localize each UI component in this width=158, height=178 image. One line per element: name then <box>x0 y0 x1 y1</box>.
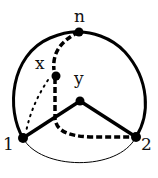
node-1 <box>18 133 28 143</box>
node-x <box>52 72 61 81</box>
dashed-path-n-x <box>54 32 79 70</box>
label-1: 1 <box>3 134 14 154</box>
graph-diagram: n x y 1 2 <box>0 0 158 178</box>
node-n <box>75 28 84 37</box>
node-y <box>76 97 85 106</box>
label-2: 2 <box>141 134 152 154</box>
node-2 <box>131 132 141 142</box>
edge-y-2 <box>80 101 136 137</box>
label-y: y <box>73 68 84 88</box>
outer-arc-thin <box>23 137 136 163</box>
edge-1-y <box>23 101 80 138</box>
label-x: x <box>35 53 45 73</box>
label-n: n <box>74 6 85 26</box>
